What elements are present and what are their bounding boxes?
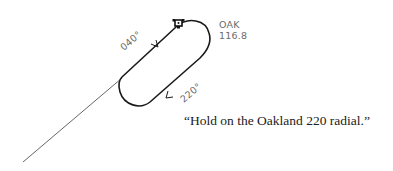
radial-line xyxy=(23,78,122,162)
outbound-arrow-icon xyxy=(166,91,173,98)
station-label: OAK 116.8 xyxy=(219,19,247,41)
station-id: OAK xyxy=(219,19,247,30)
holding-pattern-diagram: OAK 116.8 040° 220° “Hold on the Oakland… xyxy=(0,0,393,171)
inbound-arrow-icon xyxy=(151,40,158,47)
station-frequency: 116.8 xyxy=(219,30,247,41)
vor-station-icon xyxy=(173,19,185,29)
hold-instruction-caption: “Hold on the Oakland 220 radial.” xyxy=(184,113,370,129)
